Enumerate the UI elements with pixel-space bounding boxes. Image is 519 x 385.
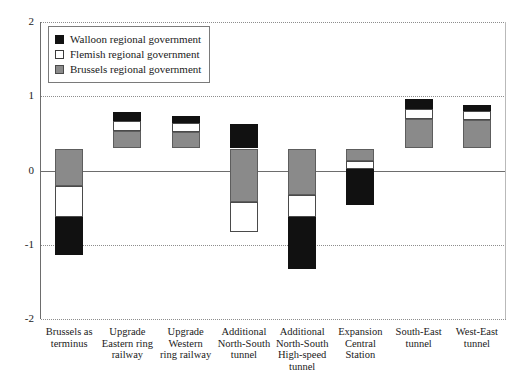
- x-category-label: Brussels asterminus: [40, 326, 98, 349]
- chart-legend: Walloon regional governmentFlemish regio…: [48, 26, 210, 83]
- bar-segment-flemish: [113, 121, 141, 131]
- x-category-label: UpgradeWesternring railway: [157, 326, 215, 361]
- bar-segment-flemish: [55, 186, 83, 217]
- bar-segment-walloon: [346, 169, 374, 205]
- legend-item-brussels: Brussels regional government: [55, 62, 201, 77]
- bar-segment-brussels: [230, 149, 258, 202]
- x-category-label: UpgradeEastern ringrailway: [98, 326, 156, 361]
- legend-swatch-walloon-icon: [55, 35, 64, 44]
- x-category-label: ExpansionCentralStation: [331, 326, 389, 361]
- plot-right-border: [505, 22, 506, 319]
- bar-segment-brussels: [55, 149, 83, 186]
- y-tick-label: 1: [0, 90, 34, 101]
- bar-segment-flemish: [346, 161, 374, 169]
- bar-segment-brussels: [172, 132, 200, 148]
- bar-segment-walloon: [405, 99, 433, 109]
- bar-segment-flemish: [463, 111, 491, 121]
- bar-segment-flemish: [230, 202, 258, 232]
- bar-segment-brussels: [288, 149, 316, 195]
- bar-group: [230, 0, 258, 297]
- legend-item-label: Brussels regional government: [70, 64, 201, 75]
- x-category-label: West-Easttunnel: [448, 326, 506, 349]
- legend-swatch-brussels-icon: [55, 65, 64, 74]
- bar-segment-flemish: [288, 195, 316, 217]
- bar-segment-brussels: [463, 120, 491, 148]
- y-tick-label: 0: [0, 165, 34, 176]
- y-tick-label: -1: [0, 239, 34, 250]
- bar-segment-walloon: [230, 124, 258, 149]
- legend-item-walloon: Walloon regional government: [55, 32, 201, 47]
- y-axis-line: [40, 22, 41, 319]
- gridline: [41, 22, 506, 23]
- legend-item-flemish: Flemish regional government: [55, 47, 201, 62]
- gridline: [41, 319, 506, 320]
- x-category-label: AdditionalNorth-Southtunnel: [215, 326, 273, 361]
- bar-segment-walloon: [55, 217, 83, 255]
- legend-item-label: Walloon regional government: [70, 34, 201, 45]
- y-tick-label: 2: [0, 16, 34, 27]
- gridline: [41, 96, 506, 97]
- bar-group: [346, 0, 374, 297]
- bar-segment-flemish: [172, 123, 200, 133]
- zero-baseline: [40, 171, 506, 172]
- legend-item-label: Flemish regional government: [70, 49, 200, 60]
- bar-group: [405, 0, 433, 297]
- bar-segment-flemish: [405, 109, 433, 119]
- bar-group: [463, 0, 491, 297]
- bar-segment-walloon: [113, 112, 141, 121]
- bar-segment-brussels: [346, 149, 374, 162]
- bar-segment-walloon: [463, 105, 491, 111]
- bar-segment-walloon: [172, 116, 200, 123]
- bar-segment-brussels: [405, 119, 433, 149]
- y-tick-label: -2: [0, 313, 34, 324]
- bar-group: [288, 0, 316, 297]
- x-category-label: South-Easttunnel: [390, 326, 448, 349]
- legend-swatch-flemish-icon: [55, 50, 64, 59]
- bar-segment-walloon: [288, 217, 316, 269]
- gridline: [41, 245, 506, 246]
- x-category-label: AdditionalNorth-SouthHigh-speedtunnel: [273, 326, 331, 372]
- stacked-bar-chart: 210-1-2 Brussels asterminusUpgradeEaster…: [0, 0, 519, 385]
- bar-segment-brussels: [113, 131, 141, 149]
